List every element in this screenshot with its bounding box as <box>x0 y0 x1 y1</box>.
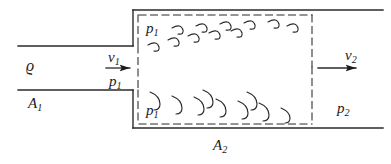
eddy-curl <box>220 22 231 30</box>
eddy-curl <box>287 24 298 32</box>
eddy-curl <box>203 90 213 108</box>
eddy-curl <box>188 34 199 42</box>
upper-eddy-group <box>148 20 298 51</box>
inlet-area-label: A1 <box>28 96 42 111</box>
lower-eddy-group <box>150 90 290 123</box>
eddy-curl <box>196 24 207 32</box>
eddy-curl <box>194 97 204 115</box>
outlet-velocity-label: v2 <box>345 48 357 63</box>
density-label: ϱ <box>26 58 34 74</box>
pipe-expansion-drawing <box>0 0 391 164</box>
figure-canvas: ϱ A1 v1 p1 p1 p1 v2 p2 A2 <box>0 0 391 164</box>
eddy-curl <box>247 92 257 110</box>
eddy-curl <box>281 108 290 123</box>
eddy-curl <box>231 29 242 37</box>
eddy-curl <box>148 43 159 51</box>
eddy-curl <box>259 103 269 121</box>
eddy-curl <box>244 21 255 29</box>
eddy-curl <box>238 101 248 119</box>
eddy-curl <box>216 99 226 117</box>
pressure-top-left-label: p1 <box>146 21 159 36</box>
eddy-curl <box>168 38 179 46</box>
eddy-curl <box>172 96 182 114</box>
inlet-velocity-label: v1 <box>108 50 120 65</box>
eddy-curl <box>172 26 183 34</box>
outlet-pressure-label: p2 <box>337 101 350 116</box>
eddy-curl <box>209 31 220 39</box>
eddy-curl <box>268 20 279 28</box>
inlet-pressure-arrow-label: p1 <box>109 74 122 89</box>
pressure-bottom-left-label: p1 <box>146 103 159 118</box>
outlet-area-label: A2 <box>213 138 227 153</box>
